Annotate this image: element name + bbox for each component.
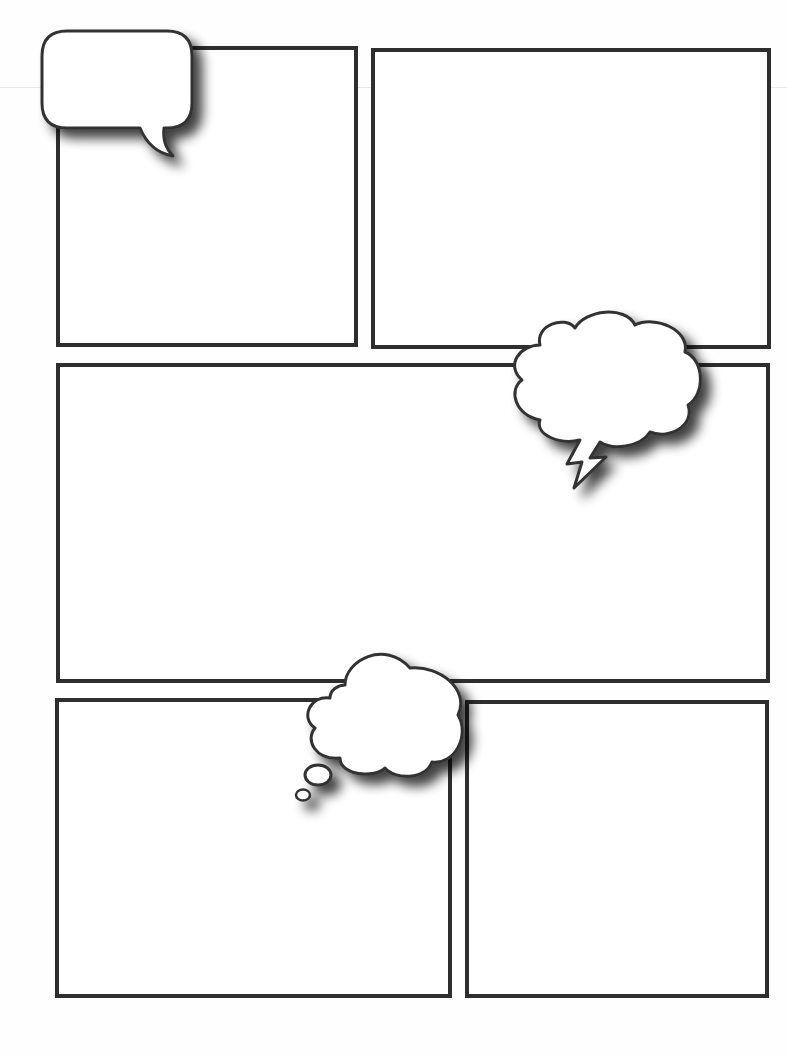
panel-top-right[interactable] (371, 48, 771, 349)
comic-page (0, 0, 787, 1056)
thought-trail-circle-large (305, 765, 331, 785)
thought-trail-circle-small (296, 790, 310, 801)
panel-bottom-right[interactable] (465, 700, 769, 998)
